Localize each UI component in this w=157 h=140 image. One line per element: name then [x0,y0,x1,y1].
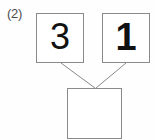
problem-number-label: (2) [7,7,22,21]
left-connector-line [61,63,95,88]
number-bond-addend-2-box[interactable]: 1 [102,13,150,63]
addend-2-value: 1 [115,18,136,56]
right-connector-line [96,63,126,88]
sum-value [68,89,121,138]
number-bond-sum-box[interactable] [67,88,122,139]
number-bond-worksheet-item: (2) 3 1 [0,0,157,140]
addend-1-value: 3 [50,19,70,55]
number-bond-addend-1-box[interactable]: 3 [36,13,84,63]
